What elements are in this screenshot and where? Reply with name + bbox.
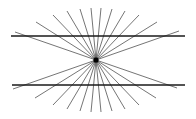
hering-illusion-figure <box>0 0 196 119</box>
center-point <box>93 57 98 62</box>
